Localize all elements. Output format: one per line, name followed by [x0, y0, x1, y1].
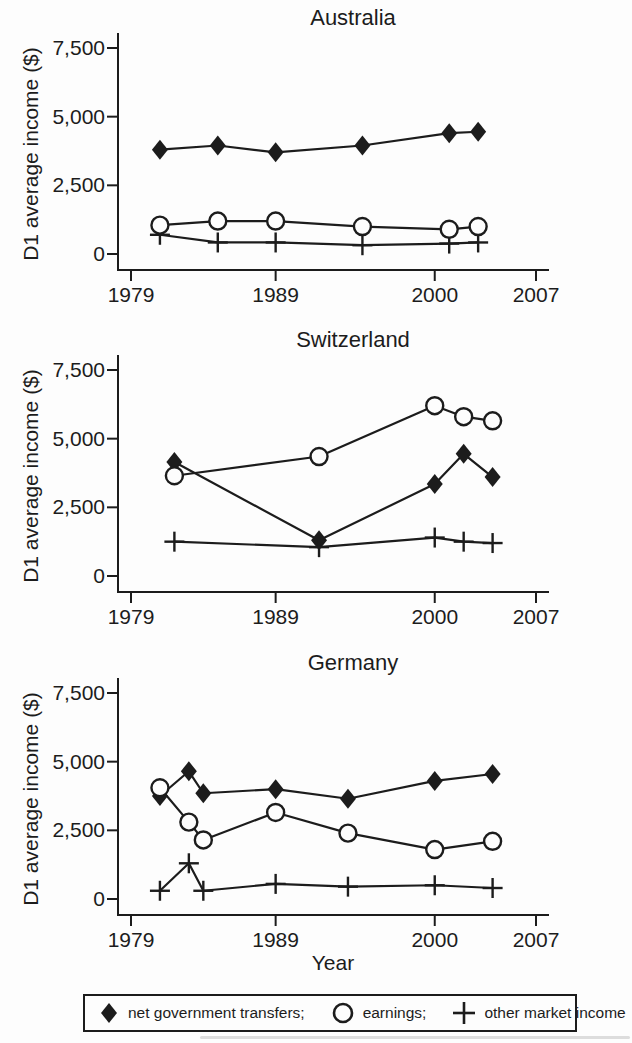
legend-label: other market income: [484, 1004, 625, 1022]
series-line-other-market-income: [160, 863, 493, 890]
circle-marker: [151, 217, 168, 234]
circle-marker: [339, 825, 356, 842]
legend-box: net government transfers; earnings; othe…: [83, 994, 577, 1032]
series-line-net-government-transfers: [174, 454, 492, 541]
plus-marker: [164, 532, 184, 552]
y-tick-label: 2,500: [52, 495, 105, 518]
diamond-marker: [210, 136, 226, 156]
series-line-earnings: [174, 406, 492, 476]
x-tick-label: 2007: [513, 283, 560, 306]
germany-plot-canvas: 02,5005,0007,5001979198920002007: [0, 645, 632, 993]
diamond-marker: [340, 789, 356, 809]
series-line-earnings: [160, 221, 478, 229]
circle-marker: [209, 213, 226, 230]
series-markers-earnings: [151, 213, 486, 238]
plus-marker: [483, 533, 503, 553]
circle-marker: [195, 831, 212, 848]
diamond-marker: [354, 136, 370, 156]
x-tick-label: 1979: [108, 283, 155, 306]
x-tick-label: 2007: [513, 605, 560, 628]
chart-title-germany: Germany: [138, 650, 568, 676]
circle-marker: [180, 814, 197, 831]
plus-marker: [352, 235, 372, 255]
legend-label: earnings;: [363, 1004, 427, 1022]
circle-open-icon: [330, 1000, 356, 1026]
y-tick-label: 2,500: [52, 818, 105, 841]
circle-marker: [354, 218, 371, 235]
axes: 02,5005,0007,5001979198920002007: [52, 678, 559, 951]
series-line-net-government-transfers: [160, 132, 478, 153]
plus-marker: [454, 532, 474, 552]
y-tick-label: 5,000: [52, 105, 105, 128]
diamond-filled-icon: [97, 1000, 121, 1026]
circle-marker: [267, 804, 284, 821]
series-line-other-market-income: [160, 235, 478, 245]
circle-marker: [151, 779, 168, 796]
circle-marker: [484, 833, 501, 850]
y-tick-label: 0: [93, 564, 105, 587]
circle-marker: [426, 841, 443, 858]
scan-artifact: [200, 1036, 630, 1039]
circle-marker: [267, 213, 284, 230]
y-tick-label: 7,500: [52, 36, 105, 59]
x-tick-label: 1989: [252, 283, 299, 306]
chart-title-australia: Australia: [138, 5, 568, 31]
x-axis-label: Year: [118, 951, 548, 975]
plus-marker: [483, 878, 503, 898]
legend-item-net-government-transfers: net government transfers;: [97, 1000, 305, 1026]
circle-marker: [470, 218, 487, 235]
diamond-marker: [485, 764, 501, 784]
plus-marker: [266, 874, 286, 894]
plus-marker: [208, 232, 228, 252]
circle-marker: [166, 467, 183, 484]
chart-germany: 02,5005,0007,5001979198920002007 Germany…: [0, 645, 632, 993]
plus-marker: [425, 528, 445, 548]
circle-marker: [441, 221, 458, 238]
legend-item-earnings: earnings;: [330, 1000, 427, 1026]
plus-marker: [338, 877, 358, 897]
axes: 02,5005,0007,5001979198920002007: [52, 355, 559, 628]
x-tick-label: 1979: [108, 605, 155, 628]
figure-page: 02,5005,0007,5001979198920002007 Austral…: [0, 0, 632, 1043]
plus-icon: [451, 1000, 477, 1026]
y-tick-label: 0: [93, 887, 105, 910]
diamond-marker: [152, 140, 168, 160]
axes: 02,5005,0007,5001979198920002007: [52, 33, 559, 306]
x-tick-label: 1989: [252, 928, 299, 951]
diamond-marker: [470, 122, 486, 142]
y-tick-label: 0: [93, 242, 105, 265]
series-line-other-market-income: [174, 538, 492, 548]
legend-item-other-market-income: other market income: [451, 1000, 625, 1026]
plus-marker: [193, 881, 213, 901]
y-tick-label: 7,500: [52, 358, 105, 381]
circle-marker: [311, 448, 328, 465]
plus-marker: [425, 875, 445, 895]
x-tick-label: 2000: [411, 605, 458, 628]
series-markers-net-government-transfers: [152, 122, 486, 163]
legend-label: net government transfers;: [128, 1004, 305, 1022]
diamond-marker: [485, 467, 501, 487]
diamond-marker: [268, 779, 284, 799]
x-tick-label: 1979: [108, 928, 155, 951]
chart-australia: 02,5005,0007,5001979198920002007 Austral…: [0, 0, 632, 322]
x-tick-label: 1989: [252, 605, 299, 628]
y-tick-label: 7,500: [52, 681, 105, 704]
diamond-marker: [268, 142, 284, 162]
y-tick-label: 2,500: [52, 173, 105, 196]
chart-title-switzerland: Switzerland: [138, 327, 568, 353]
diamond-marker: [427, 771, 443, 791]
y-tick-label: 5,000: [52, 750, 105, 773]
series-markers-other-market-income: [150, 853, 503, 900]
x-tick-label: 2007: [513, 928, 560, 951]
plus-marker: [266, 232, 286, 252]
switzerland-plot-canvas: 02,5005,0007,5001979198920002007: [0, 322, 632, 645]
x-tick-label: 2000: [411, 283, 458, 306]
series-markers-net-government-transfers: [152, 761, 501, 808]
chart-switzerland: 02,5005,0007,5001979198920002007 Switzer…: [0, 322, 632, 645]
circle-marker: [484, 412, 501, 429]
x-tick-label: 2000: [411, 928, 458, 951]
circle-marker: [455, 408, 472, 425]
y-tick-label: 5,000: [52, 427, 105, 450]
circle-marker: [426, 397, 443, 414]
australia-plot-canvas: 02,5005,0007,5001979198920002007: [0, 0, 632, 322]
